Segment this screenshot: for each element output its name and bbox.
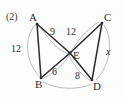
figure-page: (2) A B C D E 12 9 12 6 8 x <box>0 0 123 98</box>
measure-label-ab: 12 <box>11 44 21 54</box>
vertex-label-a: A <box>29 12 37 23</box>
vertex-label-e: E <box>73 50 80 61</box>
vertex-dot-a <box>36 23 39 26</box>
measure-label-cd-variable: x <box>106 47 110 57</box>
vertex-label-b: B <box>35 79 42 90</box>
arc-b-d-bottom <box>43 82 92 88</box>
vertex-dot-e <box>69 52 72 55</box>
measure-label-ec: 12 <box>66 27 76 37</box>
measure-label-be: 6 <box>52 67 57 77</box>
vertex-label-d: D <box>93 81 101 92</box>
segment-a-b <box>37 24 41 78</box>
measure-label-ae: 9 <box>50 27 55 37</box>
vertex-dot-c <box>101 22 104 25</box>
measure-label-ed: 8 <box>75 71 80 81</box>
problem-number: (2) <box>6 12 18 22</box>
vertex-label-c: C <box>104 12 111 23</box>
